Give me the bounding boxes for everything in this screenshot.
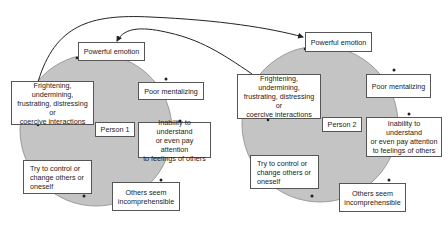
p1-poor-mentalizing-label: Poor mentalizing <box>144 87 198 96</box>
person-1-label-box: Person 1 <box>95 122 135 137</box>
p2-frightening-label: Frightening, undermining, frustrating, d… <box>240 74 318 119</box>
person-1-label: Person 1 <box>101 125 130 134</box>
p2-poor-mentalizing-label: Poor mentalizing <box>372 82 426 91</box>
p2-try-to-control-box: Try to control or change others or onese… <box>250 155 319 189</box>
p2-powerful-emotion-label: Powerful emotion <box>311 38 367 47</box>
p1-powerful-emotion-label: Powerful emotion <box>84 47 140 56</box>
p1-inability-label: Inability to understand or even pay atte… <box>141 118 208 163</box>
p2-frightening-box: Frightening, undermining, frustrating, d… <box>237 74 321 119</box>
p1-poor-mentalizing-box: Poor mentalizing <box>138 82 204 100</box>
p2-others-seem-label: Others seem incomprehensible <box>344 189 400 207</box>
p2-try-to-control-label: Try to control or change others or onese… <box>257 159 311 186</box>
p1-try-to-control-box: Try to control or change others or onese… <box>23 160 92 194</box>
p2-powerful-emotion-box: Powerful emotion <box>305 32 372 52</box>
p1-frightening-label: Frightening, undermining, frustrating, d… <box>14 81 91 126</box>
p2-others-seem-box: Others seem incomprehensible <box>339 183 406 212</box>
p2-poor-mentalizing-box: Poor mentalizing <box>366 74 431 98</box>
person-2-label: Person 2 <box>328 120 357 129</box>
p1-frightening-box: Frightening, undermining, frustrating, d… <box>11 81 94 125</box>
person-2-label-box: Person 2 <box>322 117 362 132</box>
p2-inability-label: Inability to understand or even pay atte… <box>369 119 439 155</box>
p1-others-seem-box: Others seem incomprehensible <box>112 182 180 211</box>
p1-powerful-emotion-box: Powerful emotion <box>78 42 145 61</box>
p1-inability-box: Inability to understand or even pay atte… <box>138 122 211 158</box>
p2-inability-box: Inability to understand or even pay atte… <box>366 117 442 157</box>
p1-try-to-control-label: Try to control or change others or onese… <box>30 164 84 191</box>
p1-others-seem-label: Others seem incomprehensible <box>118 188 174 206</box>
